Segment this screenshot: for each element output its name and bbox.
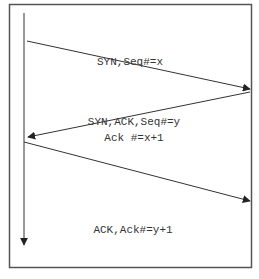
syn-ack-label: SYN,ACK,Seq#=y — [88, 116, 181, 128]
ack-label: ACK,Ack#=y+1 — [93, 224, 173, 236]
ack-number-label: Ack #=x+1 — [104, 132, 164, 144]
handshake-diagram: SYN,Seq#=x SYN,ACK,Seq#=y Ack #=x+1 ACK,… — [0, 0, 259, 279]
ack-arrow — [24, 142, 250, 201]
syn-label: SYN,Seq#=x — [97, 56, 163, 68]
syn-ack-arrow — [28, 92, 250, 137]
